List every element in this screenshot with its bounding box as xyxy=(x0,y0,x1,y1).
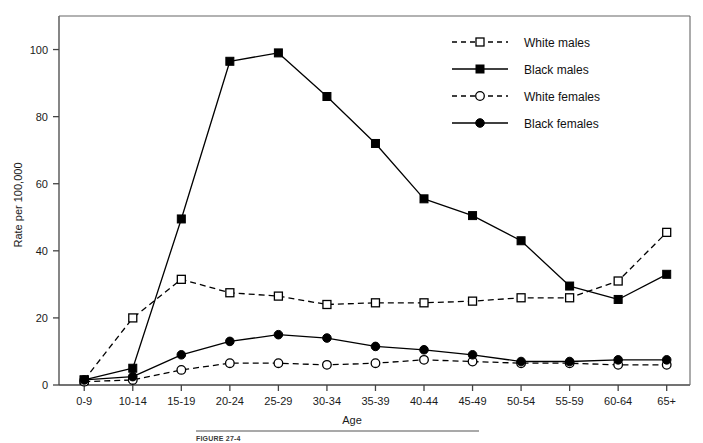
data-point-black-males xyxy=(177,215,185,223)
legend-label-black-females: Black females xyxy=(524,117,599,131)
data-point-black-females xyxy=(468,351,477,360)
data-point-black-males xyxy=(420,195,428,203)
data-point-white-males xyxy=(274,292,282,300)
data-point-black-females xyxy=(662,356,671,365)
figure-container: 020406080100 0-910-1415-1920-2425-2930-3… xyxy=(0,0,703,443)
data-point-black-males xyxy=(371,139,379,147)
data-point-black-males xyxy=(129,364,137,372)
data-point-white-females xyxy=(274,359,283,368)
data-point-white-males xyxy=(469,297,477,305)
y-tick-label: 100 xyxy=(30,44,48,56)
data-point-black-males xyxy=(226,57,234,65)
data-point-white-males xyxy=(517,294,525,302)
data-point-white-males xyxy=(566,294,574,302)
data-point-black-males xyxy=(614,295,622,303)
legend-marker-white-males xyxy=(476,38,484,46)
x-tick-label: 10-14 xyxy=(119,395,147,407)
x-tick-label: 0-9 xyxy=(76,395,92,407)
data-point-white-males xyxy=(323,300,331,308)
data-point-black-females xyxy=(128,372,137,381)
data-point-white-males xyxy=(420,299,428,307)
data-point-black-females xyxy=(565,357,574,366)
legend-label-white-females: White females xyxy=(524,90,600,104)
data-point-black-males xyxy=(469,212,477,220)
data-point-black-females xyxy=(420,345,429,354)
x-axis-label: Age xyxy=(342,414,362,426)
data-point-white-females xyxy=(323,361,332,370)
data-point-white-males xyxy=(663,228,671,236)
data-point-black-females xyxy=(226,337,235,346)
legend-marker-black-males xyxy=(476,65,484,73)
x-tick-label: 55-59 xyxy=(556,395,584,407)
legend-label-black-males: Black males xyxy=(524,63,589,77)
data-point-white-females xyxy=(226,359,235,368)
data-point-black-males xyxy=(274,49,282,57)
legend-marker-black-females xyxy=(476,119,485,128)
data-point-white-males xyxy=(371,299,379,307)
data-point-white-females xyxy=(420,356,429,365)
x-tick-label: 20-24 xyxy=(216,395,244,407)
chart-background xyxy=(0,0,703,443)
data-point-white-males xyxy=(177,275,185,283)
x-tick-label: 40-44 xyxy=(410,395,438,407)
x-tick-label: 30-34 xyxy=(313,395,341,407)
data-point-white-females xyxy=(371,359,380,368)
data-point-black-males xyxy=(566,282,574,290)
y-axis-label: Rate per 100,000 xyxy=(12,162,24,247)
legend-label-white-males: White males xyxy=(524,36,590,50)
data-point-black-males xyxy=(517,237,525,245)
data-point-white-males xyxy=(226,289,234,297)
data-point-black-females xyxy=(274,330,283,339)
y-tick-label: 0 xyxy=(42,379,48,391)
x-tick-label: 15-19 xyxy=(167,395,195,407)
x-tick-label: 65+ xyxy=(657,395,676,407)
data-point-black-females xyxy=(80,376,89,385)
data-point-black-females xyxy=(371,342,380,351)
data-point-black-females xyxy=(177,351,186,360)
y-tick-label: 80 xyxy=(36,111,48,123)
data-point-white-females xyxy=(177,366,186,375)
x-tick-label: 45-49 xyxy=(458,395,486,407)
data-point-black-females xyxy=(614,356,623,365)
data-point-white-males xyxy=(129,314,137,322)
rate-by-age-line-chart: 020406080100 0-910-1415-1920-2425-2930-3… xyxy=(0,0,703,443)
x-tick-label: 50-54 xyxy=(507,395,535,407)
y-tick-label: 60 xyxy=(36,178,48,190)
data-point-black-males xyxy=(323,93,331,101)
y-tick-label: 40 xyxy=(36,245,48,257)
y-tick-label: 20 xyxy=(36,312,48,324)
x-tick-label: 35-39 xyxy=(361,395,389,407)
data-point-black-males xyxy=(663,270,671,278)
x-tick-label: 60-64 xyxy=(604,395,632,407)
data-point-white-males xyxy=(614,277,622,285)
data-point-black-females xyxy=(323,334,332,343)
data-point-black-females xyxy=(517,357,526,366)
x-tick-label: 25-29 xyxy=(264,395,292,407)
legend-marker-white-females xyxy=(476,92,485,101)
caption-label: FIGURE 27-4 xyxy=(196,435,241,442)
